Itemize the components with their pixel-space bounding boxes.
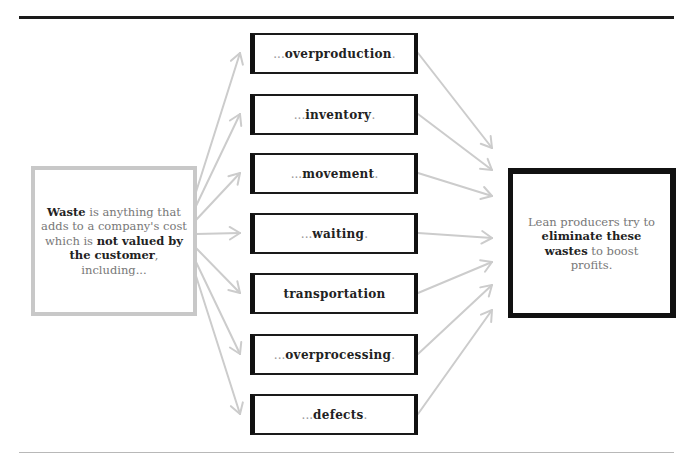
waste-suffix: . [364, 408, 368, 422]
waste-label: ...inventory. [294, 108, 375, 122]
lean-producers-box: Lean producers try to eliminate these wa… [508, 168, 676, 318]
waste-term: Waste [47, 205, 85, 219]
arrow-from-overproduction [418, 53, 492, 148]
lean-text-1: Lean producers try to [528, 215, 655, 229]
waste-name: inventory [305, 108, 371, 122]
waste-box-overproduction: ...overproduction. [250, 33, 418, 74]
lean-producers-text: Lean producers try to eliminate these wa… [527, 215, 657, 273]
waste-box-transportation: transportation [250, 273, 418, 314]
arrow-from-inventory [418, 114, 492, 170]
waste-box-movement: ...movement. [250, 153, 418, 194]
arrow-from-defects [418, 310, 492, 414]
waste-box-inventory: ...inventory. [250, 94, 418, 135]
waste-prefix: ... [291, 167, 302, 181]
waste-label: ...defects. [302, 408, 368, 422]
waste-prefix: ... [273, 47, 284, 61]
waste-label: ...overproduction. [273, 47, 395, 61]
waste-label: transportation [283, 287, 385, 301]
waste-name: overprocessing [285, 348, 391, 362]
waste-name: movement [302, 167, 374, 181]
arrow-to-overprocessing [196, 262, 241, 354]
waste-prefix: ... [302, 408, 313, 422]
waste-box-waiting: ...waiting. [250, 213, 418, 254]
waste-box-overprocessing: ...overprocessing. [250, 334, 418, 375]
waste-prefix: ... [274, 348, 285, 362]
waste-label: ...waiting. [301, 227, 368, 241]
waste-box-defects: ...defects. [250, 394, 418, 435]
arrow-from-overprocessing [418, 285, 492, 354]
waste-label: ...movement. [291, 167, 379, 181]
waste-prefix: ... [301, 227, 312, 241]
waste-name: waiting [312, 227, 364, 241]
waste-suffix: . [374, 167, 378, 181]
arrow-to-inventory [196, 114, 241, 206]
waste-suffix: . [392, 47, 396, 61]
arrow-to-waiting [196, 227, 240, 240]
arrow-to-transportation [196, 248, 240, 293]
arrow-from-waiting [418, 231, 492, 244]
waste-suffix: . [371, 108, 375, 122]
waste-suffix: . [391, 348, 395, 362]
arrow-from-movement [418, 173, 492, 199]
waste-definition-text: Waste is anything that adds to a company… [39, 205, 189, 278]
waste-prefix: ... [294, 108, 305, 122]
waste-name: transportation [283, 287, 385, 301]
waste-name: defects [313, 408, 364, 422]
waste-label: ...overprocessing. [274, 348, 395, 362]
waste-suffix: . [364, 227, 368, 241]
waste-name: overproduction [285, 47, 392, 61]
arrow-to-movement [196, 173, 240, 220]
waste-definition-box: Waste is anything that adds to a company… [31, 166, 197, 316]
